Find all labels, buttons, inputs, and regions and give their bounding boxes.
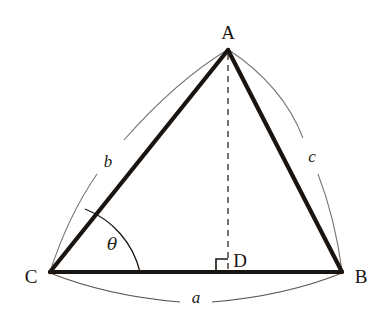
angle-label-theta: θ [107, 236, 117, 253]
side-c-measure-arc-lower [318, 174, 342, 271]
vertex-label-d: D [233, 251, 247, 270]
geometry-diagram [0, 0, 385, 317]
vertex-label-c: C [25, 267, 38, 286]
triangle-side-c [228, 50, 342, 272]
side-a-measure-arc-right [212, 273, 342, 302]
right-angle-marker [216, 259, 228, 271]
side-a-measure-arc-left [50, 273, 180, 302]
triangle-side-b [50, 50, 228, 272]
side-b-measure-arc-upper [124, 50, 227, 140]
vertex-label-b: B [355, 267, 368, 286]
side-label-b: b [104, 153, 113, 170]
vertex-label-a: A [221, 23, 235, 42]
side-label-a: a [192, 289, 201, 306]
side-label-c: c [308, 148, 316, 165]
